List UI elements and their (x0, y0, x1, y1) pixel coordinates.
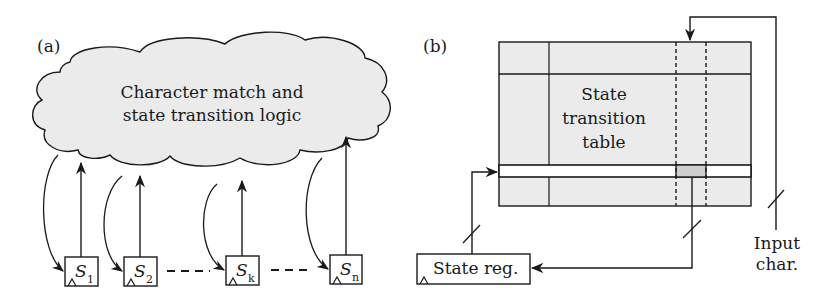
register-subscript: 1 (87, 273, 94, 286)
panel-a-label: (a) (37, 36, 60, 56)
register-sn: S n (306, 137, 362, 284)
input-char-line1: Input (754, 233, 800, 253)
cloud-text-line1: Character match and (120, 82, 303, 102)
register-s2: S 2 (104, 176, 157, 286)
input-char-line2: char. (756, 254, 798, 274)
register-symbol: S (75, 261, 87, 281)
selected-cell (676, 165, 706, 177)
table-text-line1: State (581, 84, 627, 104)
register-sk: S k (204, 181, 259, 285)
register-symbol: S (236, 260, 248, 280)
diagram-canvas: (a) Character match and state transition… (0, 0, 834, 301)
register-symbol: S (134, 261, 146, 281)
panel-b: (b) State transition table Input char. (417, 17, 800, 284)
register-s1: S 1 (44, 155, 98, 286)
state-transition-table: State transition table (499, 42, 751, 206)
state-reg-label: State reg. (433, 258, 518, 278)
register-subscript: 2 (146, 273, 153, 286)
register-symbol: S (340, 259, 352, 279)
panel-a: (a) Character match and state transition… (33, 32, 391, 286)
register-subscript: n (352, 271, 359, 284)
state-register: State reg. (417, 254, 530, 284)
table-text-line3: table (582, 132, 625, 152)
current-state-wire (472, 172, 497, 254)
panel-b-label: (b) (423, 36, 447, 56)
table-text-line2: transition (562, 108, 646, 128)
selected-row (499, 165, 751, 177)
cloud-text-line2: state transition logic (123, 105, 302, 125)
register-subscript: k (248, 272, 255, 285)
